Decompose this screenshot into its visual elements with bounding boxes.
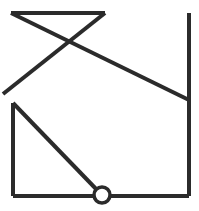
figure-svg xyxy=(0,0,199,211)
line-drawing-figure xyxy=(0,0,199,211)
stroke-group xyxy=(3,13,189,196)
upper-left-to-right-long-diagonal xyxy=(11,13,189,100)
node-circle xyxy=(94,187,110,203)
triangle-hypotenuse-segment xyxy=(13,103,99,192)
